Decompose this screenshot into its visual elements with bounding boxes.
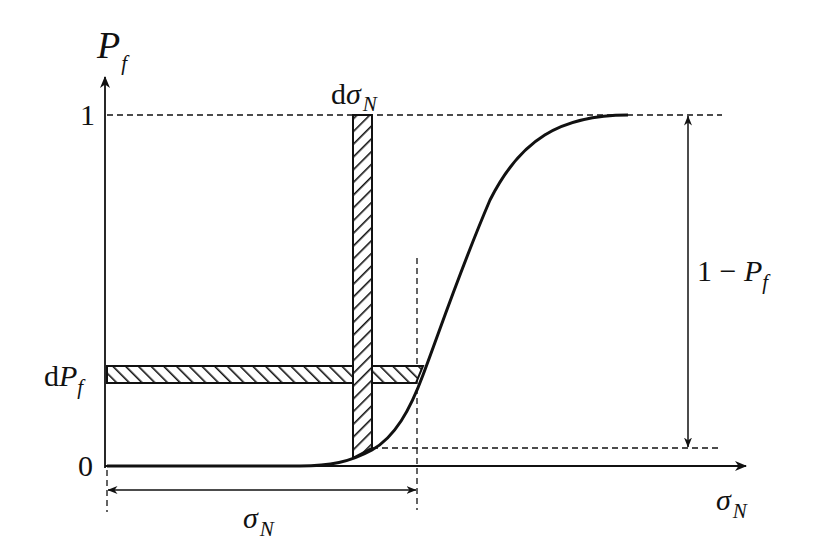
tick-label-one: 1 [80, 98, 95, 131]
x-axis-label: σN [716, 483, 748, 523]
diagram-canvas: Pf 1 0 dσN dPf 1 − Pf σN σN [0, 0, 833, 552]
y-axis-label: Pf [96, 24, 130, 75]
dsigma-strip [353, 115, 372, 458]
guide-lines [107, 115, 722, 512]
dsigma-label: dσN [331, 77, 378, 116]
axes [105, 77, 746, 468]
one-minus-pf-label: 1 − Pf [697, 254, 771, 294]
dpf-strip [107, 366, 423, 383]
dpf-label: dPf [44, 359, 86, 399]
tick-label-zero: 0 [78, 449, 93, 482]
sigma-span-label: σN [243, 501, 275, 541]
